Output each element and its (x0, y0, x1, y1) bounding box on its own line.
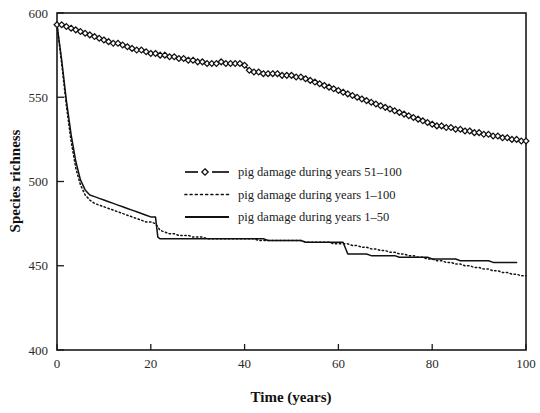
y-axis-title: Species richness (7, 129, 23, 232)
y-tick-label: 550 (29, 90, 49, 105)
chart-figure: 400450500550600 020406080100 pig damage … (0, 0, 540, 413)
x-tick-label: 80 (426, 356, 439, 371)
legend-label: pig damage during years 1–100 (238, 188, 396, 202)
species-richness-line-chart: 400450500550600 020406080100 pig damage … (0, 0, 540, 413)
x-tick-label: 20 (144, 356, 157, 371)
x-tick-label: 0 (54, 356, 61, 371)
x-tick-label: 40 (238, 356, 251, 371)
x-tick-label: 100 (516, 356, 536, 371)
legend-label: pig damage during years 51–100 (238, 165, 402, 179)
chart-background (0, 0, 540, 413)
y-tick-label: 400 (29, 343, 49, 358)
y-tick-label: 500 (29, 174, 49, 189)
x-tick-label: 60 (332, 356, 345, 371)
y-tick-label: 600 (29, 6, 49, 21)
y-tick-label: 450 (29, 258, 49, 273)
legend-label: pig damage during years 1–50 (238, 210, 389, 224)
x-axis-title: Time (years) (251, 389, 332, 406)
